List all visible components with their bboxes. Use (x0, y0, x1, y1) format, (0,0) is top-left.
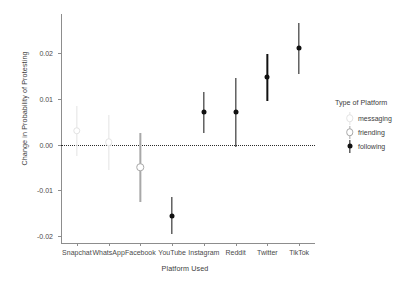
x-tick-label: WhatsApp (92, 249, 124, 256)
chart-figure: Change in Probability of Protesting Plat… (0, 0, 418, 283)
data-point (265, 75, 270, 80)
x-axis-title: Platform Used (60, 264, 310, 273)
y-tick-label: 0.01 (39, 95, 53, 102)
x-tick-label: Snapchat (62, 249, 92, 256)
legend-marker-icon (344, 126, 355, 139)
data-point (73, 127, 81, 135)
y-tick: 0.01 (58, 99, 61, 100)
x-tick (140, 243, 141, 246)
x-axis-line (61, 243, 315, 244)
data-point (201, 110, 206, 115)
legend-item[interactable]: messaging (344, 111, 418, 125)
legend-title: Type of Platform (335, 98, 418, 107)
x-tick-label: TikTok (289, 249, 309, 256)
y-tick-label: 0.00 (39, 141, 53, 148)
data-point (170, 213, 175, 218)
x-tick-label: Reddit (226, 249, 246, 256)
data-point (105, 138, 113, 146)
zero-reference-line (61, 145, 315, 146)
y-axis-title: Change in Probability of Protesting (20, 24, 29, 194)
x-tick-label: YouTube (158, 249, 186, 256)
x-tick (204, 243, 205, 246)
plot-area: -0.02-0.010.000.010.02 SnapchatWhatsAppF… (61, 14, 315, 243)
y-tick-label: 0.02 (39, 49, 53, 56)
legend-item[interactable]: following (344, 139, 418, 153)
legend-item[interactable]: friending (344, 125, 418, 139)
x-tick (267, 243, 268, 246)
x-tick (172, 243, 173, 246)
legend-label: friending (358, 129, 385, 136)
y-tick-label: -0.02 (37, 233, 53, 240)
data-point (137, 164, 145, 172)
legend-marker-icon (344, 112, 355, 125)
x-tick (109, 243, 110, 246)
legend-items: messagingfriendingfollowing (335, 111, 418, 153)
data-point (297, 46, 302, 51)
x-tick (236, 243, 237, 246)
data-point (233, 110, 238, 115)
y-tick: 0.00 (58, 145, 61, 146)
x-tick-label: Facebook (125, 249, 156, 256)
x-tick (77, 243, 78, 246)
legend-label: messaging (358, 115, 392, 122)
legend-marker-icon (344, 140, 355, 153)
legend-label: following (358, 143, 385, 150)
y-tick-label: -0.01 (37, 187, 53, 194)
y-tick: -0.02 (58, 236, 61, 237)
x-tick-label: Twitter (257, 249, 278, 256)
legend: Type of Platform messagingfriendingfollo… (335, 98, 418, 153)
y-tick: 0.02 (58, 53, 61, 54)
y-tick: -0.01 (58, 190, 61, 191)
x-tick-label: Instagram (188, 249, 219, 256)
x-tick (299, 243, 300, 246)
